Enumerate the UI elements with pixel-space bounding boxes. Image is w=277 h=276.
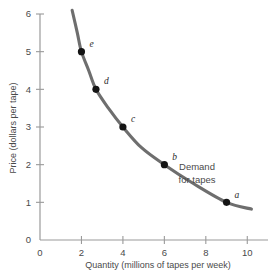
y-tick-label: 2 — [26, 159, 31, 170]
data-point-label-e: e — [89, 39, 93, 49]
demand-note-line-1: Demand — [179, 161, 215, 172]
data-point-label-b: b — [172, 152, 177, 162]
plot-background — [0, 0, 277, 276]
y-tick-label: 4 — [26, 84, 31, 95]
chart-figure: 0123456 0246810 abcde Price (dollars per… — [0, 0, 277, 276]
demand-note-line-2: for tapes — [179, 174, 216, 185]
x-tick-label: 10 — [242, 247, 253, 258]
y-axis-title: Price (dollars per tape) — [8, 82, 18, 173]
data-point-d — [92, 86, 99, 93]
x-tick-label: 0 — [37, 247, 42, 258]
x-tick-label: 4 — [120, 247, 125, 258]
x-tick-label: 8 — [203, 247, 208, 258]
data-point-label-d: d — [104, 76, 109, 86]
data-point-label-a: a — [235, 190, 240, 200]
y-tick-label: 0 — [26, 234, 31, 245]
y-tick-label: 6 — [26, 8, 31, 19]
x-axis-title: Quantity (millions of tapes per week) — [85, 260, 231, 270]
y-tick-label: 3 — [26, 121, 31, 132]
data-point-b — [161, 161, 168, 168]
data-point-c — [119, 123, 126, 130]
y-tick-label: 1 — [26, 197, 31, 208]
y-tick-label: 5 — [26, 46, 31, 57]
data-point-a — [223, 199, 230, 206]
x-tick-label: 6 — [162, 247, 167, 258]
data-point-e — [78, 48, 85, 55]
demand-curve-plot: 0123456 0246810 abcde Price (dollars per… — [0, 0, 277, 276]
x-tick-label: 2 — [79, 247, 84, 258]
